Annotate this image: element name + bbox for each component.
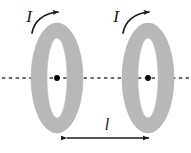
physics-diagram-figure: I I l [0,0,191,153]
left-loop [28,20,86,136]
right-loop [119,20,177,136]
right-loop-center-dot [145,75,151,81]
left-loop-center-dot [54,75,60,81]
separation-label: l [105,116,110,133]
diagram-canvas: I I l [0,0,191,153]
